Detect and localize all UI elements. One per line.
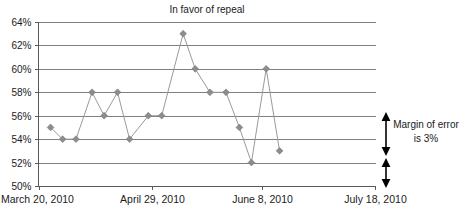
margin-of-error-label-line1: Margin of error [393, 119, 459, 130]
y-axis-tick-label: 64% [11, 17, 31, 28]
x-axis-tick-label: June 8, 2010 [232, 193, 293, 205]
y-axis-tick-label: 60% [11, 64, 31, 75]
y-axis-tick-label: 58% [11, 87, 31, 98]
x-axis-tick-label: April 29, 2010 [120, 193, 185, 205]
y-axis-tick-label: 54% [11, 134, 31, 145]
y-axis-tick-label: 50% [11, 181, 31, 192]
y-axis-tick-label: 52% [11, 158, 31, 169]
margin-of-error-label-line2: is 3% [414, 133, 439, 144]
y-axis-tick-label: 62% [11, 40, 31, 51]
x-axis-tick-label: March 20, 2010 [1, 193, 74, 205]
y-axis-tick-label: 56% [11, 111, 31, 122]
chart-title: In favor of repeal [169, 4, 244, 15]
chart-container: In favor of repeal 64%62%60%58%56%54%52%… [0, 0, 469, 212]
x-axis-tick-label: July 18, 2010 [344, 193, 407, 205]
line-chart: In favor of repeal 64%62%60%58%56%54%52%… [0, 0, 469, 212]
chart-background [0, 0, 469, 212]
